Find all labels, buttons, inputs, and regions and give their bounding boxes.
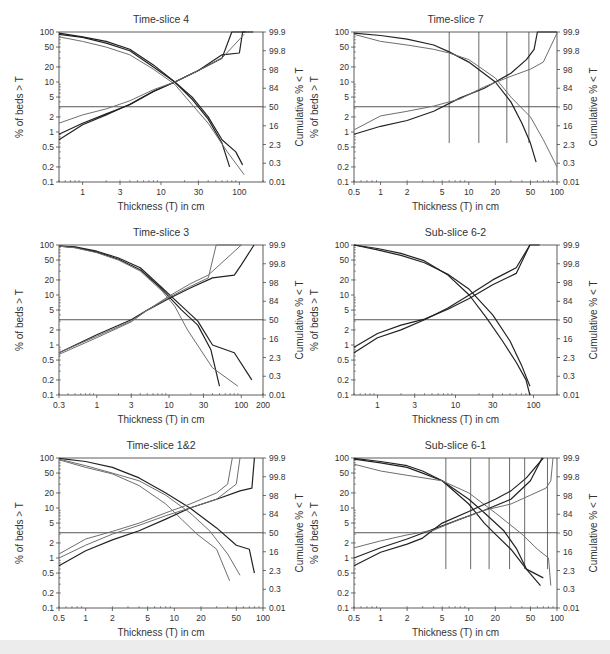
svg-text:16: 16 [269, 547, 279, 557]
y-axis-label-left: % of beds > T [309, 76, 320, 138]
y-axis-label-left: % of beds > T [14, 502, 25, 564]
svg-text:0.2: 0.2 [337, 588, 349, 598]
svg-text:50: 50 [232, 613, 242, 623]
svg-text:0.5: 0.5 [337, 355, 349, 365]
svg-text:50: 50 [340, 255, 350, 265]
svg-text:16: 16 [563, 547, 573, 557]
svg-text:0.3: 0.3 [269, 371, 281, 381]
svg-text:0.2: 0.2 [337, 375, 349, 385]
svg-text:100: 100 [232, 187, 246, 197]
svg-text:20: 20 [196, 613, 206, 623]
svg-text:0.5: 0.5 [348, 187, 360, 197]
svg-text:1: 1 [344, 127, 349, 137]
svg-text:10: 10 [340, 77, 350, 87]
svg-text:100: 100 [550, 613, 564, 623]
svg-text:0.1: 0.1 [337, 390, 349, 400]
series-exceedance-1 [59, 458, 254, 573]
svg-text:98: 98 [563, 491, 573, 501]
svg-text:10: 10 [170, 613, 180, 623]
svg-text:0.5: 0.5 [42, 568, 54, 578]
svg-text:10: 10 [464, 613, 474, 623]
svg-text:0.2: 0.2 [42, 588, 54, 598]
chart-panel-ss62: Sub-slice 6-21005020105210.50.20.199.999… [305, 213, 610, 426]
x-axis-label: Thickness (T) in cm [117, 414, 204, 425]
svg-text:0.3: 0.3 [53, 400, 65, 410]
svg-text:2: 2 [49, 325, 54, 335]
svg-text:98: 98 [269, 278, 279, 288]
svg-text:20: 20 [491, 187, 501, 197]
svg-text:98: 98 [563, 278, 573, 288]
svg-text:99.8: 99.8 [563, 259, 580, 269]
svg-text:100: 100 [335, 27, 349, 37]
series-exceedance-3 [59, 460, 230, 581]
series-cumulative-1 [59, 245, 254, 353]
series-cumulative-2 [354, 33, 557, 130]
svg-text:98: 98 [563, 65, 573, 75]
svg-text:0.01: 0.01 [563, 390, 580, 400]
svg-text:2.3: 2.3 [269, 353, 281, 363]
svg-text:98: 98 [269, 65, 279, 75]
svg-text:30: 30 [194, 187, 204, 197]
svg-text:2: 2 [49, 112, 54, 122]
svg-text:10: 10 [45, 77, 55, 87]
svg-text:84: 84 [563, 296, 573, 306]
svg-text:50: 50 [45, 255, 55, 265]
svg-text:1: 1 [49, 127, 54, 137]
svg-text:50: 50 [269, 315, 279, 325]
svg-text:20: 20 [340, 488, 350, 498]
svg-text:99.8: 99.8 [269, 46, 286, 56]
svg-text:20: 20 [491, 613, 501, 623]
x-axis-label: Thickness (T) in cm [412, 201, 499, 212]
svg-text:5: 5 [49, 305, 54, 315]
svg-text:30: 30 [199, 400, 209, 410]
svg-text:50: 50 [269, 102, 279, 112]
svg-text:0.5: 0.5 [337, 568, 349, 578]
chart-title: Sub-slice 6-1 [425, 439, 486, 451]
svg-text:16: 16 [563, 121, 573, 131]
svg-text:100: 100 [550, 187, 564, 197]
y-axis-label-left: % of beds > T [14, 76, 25, 138]
series-cumulative-3 [59, 34, 244, 123]
x-axis-label: Thickness (T) in cm [412, 414, 499, 425]
svg-text:2.3: 2.3 [563, 140, 575, 150]
svg-text:1: 1 [344, 340, 349, 350]
svg-text:100: 100 [256, 613, 270, 623]
chart-panel-ts3: Time-slice 31005020105210.50.20.199.999.… [0, 213, 305, 426]
svg-text:84: 84 [269, 296, 279, 306]
figure: Time-slice 41005020105210.50.20.199.999.… [0, 0, 610, 640]
svg-text:1: 1 [378, 613, 383, 623]
svg-text:5: 5 [344, 92, 349, 102]
series-cumulative-2 [59, 245, 241, 353]
svg-text:20: 20 [340, 62, 350, 72]
svg-text:0.3: 0.3 [563, 371, 575, 381]
chart-title: Time-slice 4 [133, 13, 189, 25]
svg-text:0.01: 0.01 [563, 603, 580, 613]
svg-text:1: 1 [83, 613, 88, 623]
svg-text:2: 2 [344, 538, 349, 548]
svg-text:0.5: 0.5 [42, 142, 54, 152]
svg-text:0.2: 0.2 [337, 162, 349, 172]
svg-text:50: 50 [526, 187, 536, 197]
svg-text:16: 16 [563, 334, 573, 344]
series-cumulative-2 [59, 458, 240, 558]
chart-title: Time-slice 7 [427, 13, 483, 25]
svg-text:1: 1 [49, 340, 54, 350]
svg-text:0.01: 0.01 [563, 177, 580, 187]
svg-text:50: 50 [269, 528, 279, 538]
svg-text:200: 200 [256, 400, 270, 410]
x-axis-label: Thickness (T) in cm [117, 627, 204, 638]
chart-panel-ss61: Sub-slice 6-11005020105210.50.20.199.999… [305, 426, 610, 639]
chart-title: Time-slice 1&2 [126, 439, 195, 451]
svg-text:1: 1 [49, 553, 54, 563]
svg-text:50: 50 [45, 468, 55, 478]
series-cumulative-1 [354, 32, 557, 134]
svg-text:98: 98 [269, 491, 279, 501]
series-cumulative-3 [59, 245, 241, 354]
svg-text:50: 50 [563, 315, 573, 325]
svg-text:5: 5 [49, 92, 54, 102]
series-cumulative-1 [59, 32, 246, 134]
svg-text:10: 10 [464, 187, 474, 197]
svg-text:2: 2 [344, 325, 349, 335]
svg-text:99.8: 99.8 [269, 472, 286, 482]
svg-text:20: 20 [45, 488, 55, 498]
